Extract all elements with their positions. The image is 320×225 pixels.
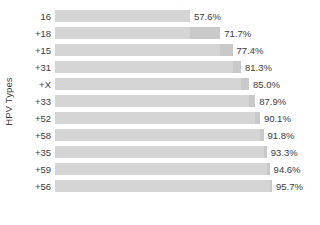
value-label: 95.7% <box>276 181 303 193</box>
bar-increment-segment <box>260 129 264 141</box>
bar-row: +1871.7% <box>0 26 320 43</box>
bar-row: +1577.4% <box>0 43 320 60</box>
category-label: +56 <box>0 181 51 193</box>
category-label: +59 <box>0 164 51 176</box>
bar <box>55 180 272 192</box>
bar-track: 57.6% <box>55 10 320 22</box>
bar-track: 87.9% <box>55 95 320 107</box>
bar <box>55 61 241 73</box>
bar <box>55 27 220 39</box>
bar-track: 77.4% <box>55 44 320 56</box>
value-label: 94.6% <box>274 164 301 176</box>
bar-increment-segment <box>270 180 272 192</box>
cropped-title-remnant: ...... <box>120 0 240 4</box>
category-label: +31 <box>0 62 51 74</box>
bar-track: 71.7% <box>55 27 320 39</box>
bar-row: +3181.3% <box>0 60 320 77</box>
category-label: 16 <box>0 11 51 23</box>
value-label: 81.3% <box>245 62 272 74</box>
category-label: +35 <box>0 147 51 159</box>
category-label: +58 <box>0 130 51 142</box>
value-label: 93.3% <box>271 147 298 159</box>
plot-area: 1657.6%+1871.7%+1577.4%+3181.3%+X85.0%+3… <box>0 9 320 196</box>
bar <box>55 44 233 56</box>
value-label: 87.9% <box>259 96 286 108</box>
bar-increment-segment <box>267 163 270 175</box>
bar <box>55 129 264 141</box>
bar-row: +5994.6% <box>0 162 320 179</box>
bar-track: 94.6% <box>55 163 320 175</box>
bar-track: 91.8% <box>55 129 320 141</box>
bar-row: +X85.0% <box>0 77 320 94</box>
bar-row: 1657.6% <box>0 9 320 26</box>
value-label: 85.0% <box>253 79 280 91</box>
bar-increment-segment <box>190 27 220 39</box>
value-label: 77.4% <box>237 45 264 57</box>
value-label: 90.1% <box>264 113 291 125</box>
bar-increment-segment <box>241 78 249 90</box>
category-label: +X <box>0 79 51 91</box>
bar-row: +3387.9% <box>0 94 320 111</box>
bar-row: +5891.8% <box>0 128 320 145</box>
bar <box>55 163 270 175</box>
bar-row: +3593.3% <box>0 145 320 162</box>
value-label: 57.6% <box>194 11 221 23</box>
bar-track: 93.3% <box>55 146 320 158</box>
bar-increment-segment <box>249 95 255 107</box>
value-label: 71.7% <box>224 28 251 40</box>
bar <box>55 112 260 124</box>
bar-track: 85.0% <box>55 78 320 90</box>
bar-row: +5695.7% <box>0 179 320 196</box>
bar <box>55 146 267 158</box>
bar <box>55 10 190 22</box>
category-label: +52 <box>0 113 51 125</box>
bar-track: 81.3% <box>55 61 320 73</box>
bar-track: 95.7% <box>55 180 320 192</box>
bar-chart: ...... HPV Types 1657.6%+1871.7%+1577.4%… <box>0 0 320 225</box>
bar-increment-segment <box>233 61 241 73</box>
category-label: +15 <box>0 45 51 57</box>
bar <box>55 78 249 90</box>
category-label: +33 <box>0 96 51 108</box>
bar-row: +5290.1% <box>0 111 320 128</box>
bar-increment-segment <box>255 112 260 124</box>
bar <box>55 95 255 107</box>
bar-track: 90.1% <box>55 112 320 124</box>
category-label: +18 <box>0 28 51 40</box>
bar-increment-segment <box>220 44 232 56</box>
bar-increment-segment <box>264 146 267 158</box>
value-label: 91.8% <box>268 130 295 142</box>
